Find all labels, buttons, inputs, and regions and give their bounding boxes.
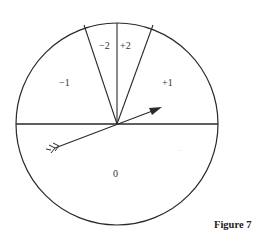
arrowhead-icon [149,107,162,115]
circle-diagram: −2 +2 −1 +1 0 · [0,0,272,243]
arrow [46,107,162,153]
region-label-plus1: +1 [162,77,173,88]
region-label-minus2: −2 [99,40,110,51]
region-label-plus2: +2 [120,40,131,51]
region-label-zero: 0 [113,168,118,179]
stray-dot: · [179,148,181,153]
arrow-fletching-icon [46,143,59,153]
figure-caption: Figure 7 [214,219,251,230]
region-label-minus1: −1 [59,77,70,88]
